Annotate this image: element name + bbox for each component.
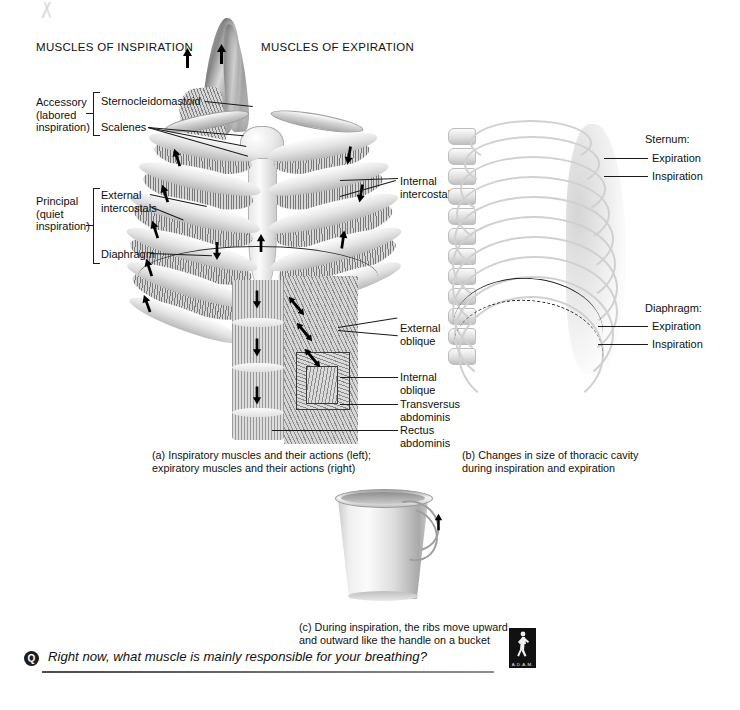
question-underline-rule [42, 671, 494, 673]
tendinous-intersection [232, 408, 284, 417]
tendinous-intersection [232, 318, 284, 327]
group-label-accessory: Accessory (labored inspiration) [36, 96, 96, 134]
label-external-oblique: External oblique [400, 322, 440, 347]
label-rectus-abdominis: Rectus abdominis [400, 424, 450, 449]
bracket-accessory [93, 92, 100, 136]
label-diaphragm-expiration: Expiration [652, 320, 701, 333]
leader-internal-oblique [340, 377, 398, 378]
label-sternum-title: Sternum: [645, 133, 690, 146]
action-arrow-down [212, 240, 222, 262]
bracket-principal [93, 188, 100, 264]
action-arrow-down [252, 290, 262, 309]
label-external-intercostals: External intercostals [101, 189, 157, 214]
figure-c-bucket-handle-analogy [322, 487, 448, 603]
figure-b-lateral-thorax [448, 118, 638, 418]
action-arrow-up [182, 48, 193, 68]
leader-diaphragm-expiration [598, 326, 648, 327]
tendinous-intersection [232, 363, 284, 372]
label-diaphragm-title: Diaphragm: [645, 302, 702, 315]
leader-rectus-abdominis [272, 430, 398, 431]
label-diaphragm: Diaphragm [101, 248, 155, 261]
label-diaphragm-inspiration: Inspiration [652, 338, 703, 351]
action-arrow-up [216, 44, 227, 64]
transversus-abdominis-window [306, 366, 338, 404]
figure-a-anterior-thorax [128, 18, 418, 438]
bucket-base [348, 591, 418, 601]
label-sternum-expiration: Expiration [652, 152, 701, 165]
group-label-principal: Principal (quiet inspiration) [36, 195, 98, 233]
leader-transversus-abdominis [340, 404, 398, 405]
scan-artifact [36, 2, 58, 18]
leader-sternum-expiration [604, 158, 648, 159]
handle-motion-arrow-up [434, 511, 443, 533]
leader-diaphragm-inspiration [598, 344, 648, 345]
action-arrow-up [256, 232, 266, 254]
label-sternum-inspiration: Inspiration [652, 170, 703, 183]
caption-a: (a) Inspiratory muscles and their action… [152, 449, 371, 475]
question-bar: Q Right now, what muscle is mainly respo… [24, 648, 716, 688]
caption-b: (b) Changes in size of thoracic cavity d… [462, 449, 638, 475]
question-text: Right now, what muscle is mainly respons… [48, 649, 427, 664]
caption-c: (c) During inspiration, the ribs move up… [299, 621, 508, 647]
bracket-accessory-tick [86, 113, 93, 114]
label-sternocleidomastoid: Sternocleidomastoid [101, 95, 201, 108]
label-internal-oblique: Internal oblique [400, 371, 437, 396]
action-arrow-down [252, 338, 262, 357]
label-scalenes: Scalenes [101, 121, 146, 134]
leader-sternum-inspiration [604, 176, 648, 177]
question-badge-icon: Q [24, 651, 39, 666]
bracket-principal-tick [86, 225, 93, 226]
action-arrow-down [252, 386, 262, 405]
